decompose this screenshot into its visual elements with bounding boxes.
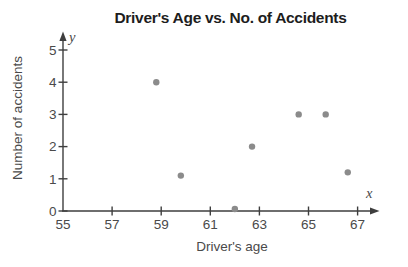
y-tick-label: 0 [49, 204, 57, 219]
x-tick-label: 63 [252, 217, 267, 232]
y-tick-label: 1 [49, 172, 57, 187]
x-tick-label: 65 [301, 217, 316, 232]
y-axis-arrowhead [59, 32, 66, 42]
data-point [249, 143, 255, 149]
scatter-plot: 55575961636567012345 [0, 0, 408, 267]
data-point [295, 111, 301, 117]
data-point [178, 172, 184, 178]
x-axis-arrowhead [370, 207, 380, 214]
x-tick-label: 57 [105, 217, 120, 232]
y-tick-label: 3 [49, 107, 57, 122]
data-point [322, 111, 328, 117]
y-tick-label: 2 [49, 139, 57, 154]
data-point [153, 79, 159, 85]
scatter-figure: Driver's Age vs. No. of Accidents Number… [0, 0, 408, 267]
x-tick-label: 59 [154, 217, 169, 232]
data-point [232, 206, 238, 212]
x-tick-label: 55 [55, 217, 70, 232]
data-point [345, 169, 351, 175]
x-tick-label: 61 [203, 217, 218, 232]
y-tick-label: 5 [49, 43, 57, 58]
y-tick-label: 4 [49, 75, 57, 90]
x-tick-label: 67 [350, 217, 365, 232]
